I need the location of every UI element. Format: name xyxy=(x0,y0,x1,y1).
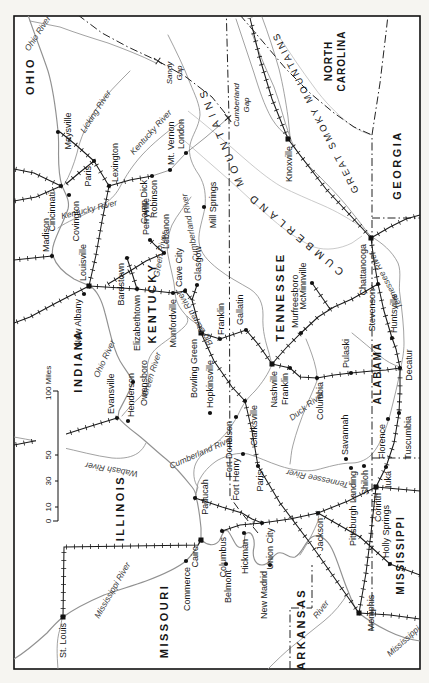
scale-tick-50: 50 xyxy=(44,450,53,459)
city-label-jackson: Jackson xyxy=(315,518,325,551)
city-label-camp-dick-1: Camp Dick xyxy=(139,180,149,225)
city-marker-florence xyxy=(386,417,390,421)
gap-label-sandy-1: Sandy xyxy=(165,61,174,85)
state-label-ohio: OHIO xyxy=(24,57,36,95)
city-marker-maysville xyxy=(56,130,60,134)
city-label-lexington: Lexington xyxy=(110,143,120,182)
city-label-hickman: Hickman xyxy=(240,539,250,574)
city-marker-henderson xyxy=(126,419,130,423)
city-label-holly-springs: Holly Springs xyxy=(381,504,391,558)
city-marker-savannah xyxy=(344,457,348,461)
city-label-columbia: Columbia xyxy=(315,382,325,420)
city-label-new-madrid: New Madrid xyxy=(259,571,269,619)
city-marker-knoxville xyxy=(286,137,291,142)
city-label-paris-ky: Paris xyxy=(83,166,93,187)
state-label-north-carolina-2: CAROLINA xyxy=(336,31,347,92)
city-label-cave-city: Cave City xyxy=(174,247,184,287)
city-label-nashville: Nashville xyxy=(269,371,279,408)
city-marker-nashville xyxy=(270,362,275,367)
city-label-bardstown: Bardstown xyxy=(116,263,126,306)
city-label-tuscumbia: Tuscumbia xyxy=(403,416,413,460)
city-marker-decatur xyxy=(398,366,402,370)
map-rotation-wrapper: 0 10 30 50 100 Miles xyxy=(0,0,429,683)
state-label-mississippi: MISSISSIPPI xyxy=(395,515,406,594)
city-marker-cincinnati xyxy=(59,184,63,188)
city-marker-stevenson xyxy=(376,282,380,286)
city-marker-covington xyxy=(67,193,71,197)
city-label-mcminnville: McMinnville xyxy=(298,262,308,309)
state-label-arkansas: ARKANSAS xyxy=(295,588,307,670)
city-label-huntsville: Huntsville xyxy=(389,294,399,333)
city-label-franklin-tn: Franklin xyxy=(280,373,290,405)
city-marker-mt-vernon xyxy=(168,168,172,172)
city-marker-clarksville xyxy=(243,399,247,403)
city-marker-cairo xyxy=(199,538,204,543)
city-label-henderson: Henderson xyxy=(126,373,136,417)
city-marker-jackson xyxy=(316,511,320,515)
city-label-london: London xyxy=(176,119,186,149)
city-label-clarksville: Clarksville xyxy=(249,405,259,446)
city-label-glasgow: Glasgow xyxy=(193,245,203,281)
city-label-savannah: Savannah xyxy=(340,414,350,455)
city-label-bowling-green: Bowling Green xyxy=(189,339,199,398)
city-marker-gallatin xyxy=(244,328,248,332)
city-label-stevenson: Stevenson xyxy=(367,289,377,332)
state-label-georgia: GEORGIA xyxy=(391,130,403,199)
city-marker-bardstown xyxy=(125,256,129,260)
city-label-paris-tn: Paris xyxy=(255,471,265,492)
city-label-lebanon: Lebanon xyxy=(161,214,171,249)
scale-tick-30: 30 xyxy=(44,476,53,485)
city-marker-hopkinsville xyxy=(208,411,212,415)
scale-tick-0: 0 xyxy=(44,518,53,523)
state-label-illinois: ILLINOIS xyxy=(114,475,126,541)
city-marker-mcminnville xyxy=(310,281,314,285)
city-label-covington: Covington xyxy=(71,201,81,242)
city-marker-chattanooga xyxy=(369,236,374,241)
city-marker-shiloh xyxy=(362,464,366,468)
city-marker-huntsville xyxy=(390,336,394,340)
city-label-paducah: Paducah xyxy=(200,479,210,515)
city-label-florence: Florence xyxy=(377,424,387,459)
city-marker-evansville xyxy=(115,416,119,420)
city-label-hopkinsville: Hopkinsville xyxy=(205,360,215,408)
city-marker-tuscumbia xyxy=(397,411,401,415)
city-marker-new-albany xyxy=(82,292,86,296)
gap-label-cumberland-2: Gap xyxy=(242,97,251,113)
city-marker-london xyxy=(184,151,188,155)
state-label-tennessee: TENNESSEE xyxy=(274,252,286,341)
city-label-franklin-ky: Franklin xyxy=(216,303,226,335)
gap-label-cumberland-1: Cumberland xyxy=(232,83,241,127)
city-label-fort-donelson: Fort Donelson xyxy=(224,421,234,478)
city-marker-glasgow xyxy=(195,283,199,287)
city-label-louisville: Louisville xyxy=(78,244,88,281)
gap-label-sandy-2: Gap xyxy=(175,65,184,81)
city-marker-pittsburgh-landing xyxy=(349,466,353,470)
city-marker-pulaski xyxy=(349,371,353,375)
city-label-pulaski: Pulaski xyxy=(341,339,351,368)
city-label-cairo: Cairo xyxy=(190,546,200,568)
city-label-cincinnati: Cincinnati xyxy=(47,192,57,232)
city-label-decatur: Decatur xyxy=(404,349,414,381)
city-marker-murfreesboro xyxy=(299,331,303,335)
city-marker-paris-ky xyxy=(92,159,96,163)
state-label-north-carolina-1: NORTH xyxy=(323,41,334,82)
city-label-maysville: Maysville xyxy=(63,112,73,149)
city-marker-madison xyxy=(50,254,54,258)
city-marker-commerce xyxy=(184,559,188,563)
city-label-munfordville: Munfordville xyxy=(168,299,178,348)
scale-tick-10: 10 xyxy=(44,502,53,511)
city-marker-perryville xyxy=(148,238,152,242)
city-label-elizabethtown: Elizabethtown xyxy=(132,295,142,351)
city-label-union-city: Union City xyxy=(265,528,275,570)
city-marker-columbia xyxy=(315,376,319,380)
city-marker-corinth xyxy=(374,485,379,490)
city-label-mt-vernon: Mt. Vernon xyxy=(166,121,176,165)
city-marker-iuka xyxy=(384,465,388,469)
city-label-st-louis: St. Louis xyxy=(58,623,68,659)
war-theater-map: 0 10 30 50 100 Miles xyxy=(0,0,429,683)
city-label-owensboro: Owensboro xyxy=(139,360,149,406)
scale-bar: 0 10 30 50 100 Miles xyxy=(36,363,66,533)
city-marker-franklin-tn xyxy=(288,366,292,370)
city-marker-hickman xyxy=(242,531,246,535)
city-label-iuka: Iuka xyxy=(383,471,393,488)
